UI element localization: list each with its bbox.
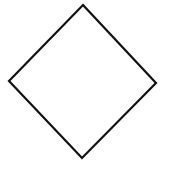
diagram-canvas (0, 0, 173, 171)
